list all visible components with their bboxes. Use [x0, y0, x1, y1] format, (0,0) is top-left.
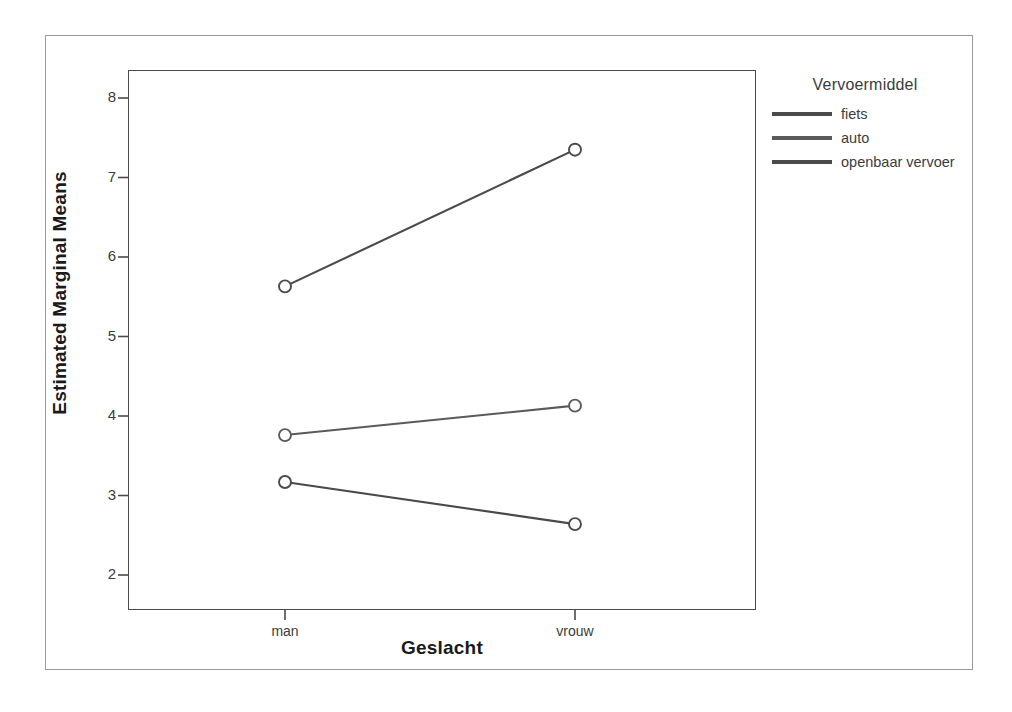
- legend-title: Vervoermiddel: [772, 76, 958, 94]
- legend-swatch-icon: [772, 160, 832, 164]
- x-tick-label-vrouw: vrouw: [505, 623, 645, 639]
- legend-items: fietsautoopenbaar vervoer: [772, 103, 972, 173]
- chart-legend: Vervoermiddel fietsautoopenbaar vervoer: [772, 76, 972, 175]
- y-tick-label-5: 5: [76, 327, 116, 344]
- legend-item-openbaar-vervoer[interactable]: openbaar vervoer: [772, 151, 972, 173]
- legend-swatch-icon: [772, 136, 832, 140]
- legend-swatch-icon: [772, 112, 832, 116]
- y-tick-label-6: 6: [76, 247, 116, 264]
- legend-item-fiets[interactable]: fiets: [772, 103, 972, 125]
- legend-item-label: openbaar vervoer: [841, 154, 955, 170]
- y-tick-label-3: 3: [76, 486, 116, 503]
- x-tick-label-man: man: [215, 623, 355, 639]
- plot-area-frame: [128, 70, 756, 610]
- x-axis-title: Geslacht: [128, 637, 756, 659]
- legend-item-label: auto: [841, 130, 869, 146]
- y-tick-label-2: 2: [76, 565, 116, 582]
- y-axis-title: Estimated Marginal Means: [49, 83, 71, 503]
- y-tick-label-8: 8: [76, 88, 116, 105]
- y-tick-label-7: 7: [76, 168, 116, 185]
- chart-page: Estimated Marginal Means Geslacht 876543…: [0, 0, 1012, 712]
- legend-item-label: fiets: [841, 106, 868, 122]
- y-tick-label-4: 4: [76, 406, 116, 423]
- legend-item-auto[interactable]: auto: [772, 127, 972, 149]
